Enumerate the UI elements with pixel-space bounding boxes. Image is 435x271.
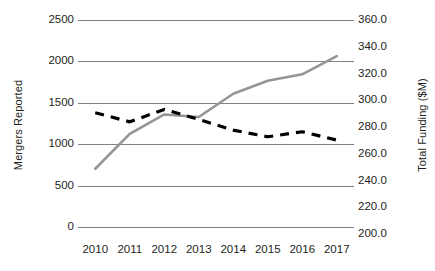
x-tick-label: 2016 — [289, 243, 315, 255]
line-chart: Mergers Reported Total Funding ($M) 2500… — [0, 0, 435, 271]
right-tick-label: 220.0 — [358, 201, 387, 213]
left-axis-ticks: 25002000150010005000 — [22, 0, 74, 271]
left-tick-label: 1500 — [48, 97, 74, 109]
x-tick-label: 2013 — [186, 243, 212, 255]
series-line-total-funding — [95, 56, 337, 169]
right-tick-label: 240.0 — [358, 175, 387, 187]
plot-area — [78, 20, 354, 227]
right-tick-label: 260.0 — [358, 148, 387, 160]
x-tick-label: 2014 — [220, 243, 246, 255]
x-tick-label: 2015 — [255, 243, 281, 255]
left-tick-label: 500 — [55, 180, 74, 192]
x-tick-label: 2017 — [324, 243, 350, 255]
x-tick-label: 2011 — [117, 243, 142, 255]
right-tick-label: 340.0 — [358, 41, 387, 53]
right-tick-label: 300.0 — [358, 94, 387, 106]
x-tick-label: 2012 — [151, 243, 177, 255]
right-tick-label: 280.0 — [358, 121, 387, 133]
right-tick-label: 320.0 — [358, 68, 387, 80]
x-tick-label: 2010 — [82, 243, 108, 255]
right-tick-label: 360.0 — [358, 14, 387, 26]
left-tick-label: 0 — [68, 221, 74, 233]
left-tick-label: 1000 — [48, 138, 74, 150]
left-tick-label: 2500 — [48, 14, 74, 26]
right-tick-label: 200.0 — [358, 228, 387, 240]
x-axis-ticks: 20102011201220132014201520162017 — [78, 243, 354, 263]
series-layer — [78, 20, 354, 227]
series-line-mergers-reported — [95, 109, 337, 140]
right-axis-ticks: 360.0340.0320.0300.0280.0260.0240.0220.0… — [358, 0, 418, 271]
gridline — [78, 227, 354, 228]
left-tick-label: 2000 — [48, 55, 74, 67]
